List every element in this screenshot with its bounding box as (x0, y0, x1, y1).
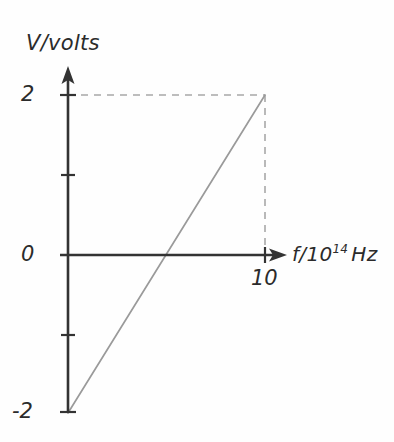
x-axis-title-unit: Hz (351, 242, 377, 266)
y-axis-title: V/volts (26, 33, 100, 54)
x-axis-title: f/1014Hz (292, 243, 377, 264)
plot-canvas (0, 0, 394, 442)
x-axis-title-base: f/10 (292, 242, 332, 266)
y-tick-label-minus-2: -2 (12, 401, 33, 422)
x-axis-title-exponent: 14 (332, 242, 348, 256)
y-tick-label-2: 2 (21, 84, 34, 105)
chart-figure: V/volts f/1014Hz 2 0 -2 10 (0, 0, 394, 442)
y-tick-label-0: 0 (21, 244, 34, 265)
x-tick-label-10: 10 (251, 268, 278, 289)
